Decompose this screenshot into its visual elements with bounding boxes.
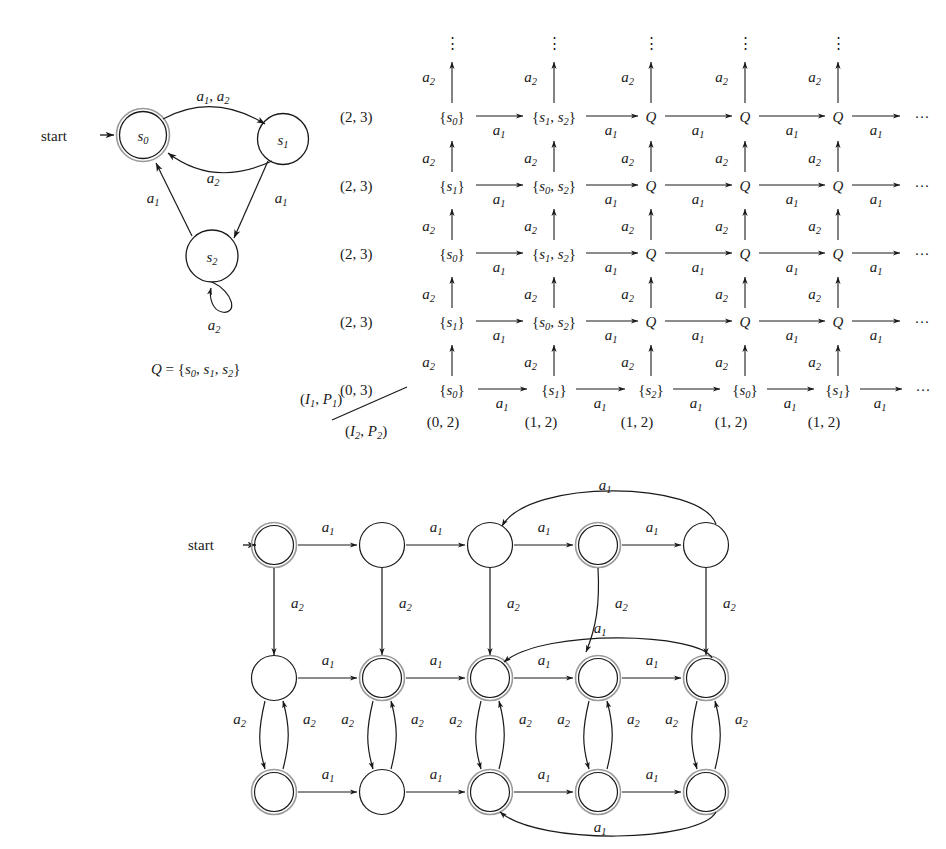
bottom-label-1: (1, 2) [525, 414, 558, 431]
row-0-up-label-3: a2 [715, 69, 729, 87]
row-3-arrowlabel-2: a1 [692, 327, 705, 345]
edge-s2-self-loop [210, 282, 231, 312]
edge-c2-r2-to-r1 [499, 701, 504, 769]
row-2-arrowlabel-4: a1 [870, 259, 883, 277]
bottom-label-2: (1, 2) [621, 414, 654, 431]
row-4-up-label-2: a2 [621, 354, 635, 372]
edge-r2-label-2: a1 [538, 766, 551, 784]
bottom-automaton: start a1 a1 a1 a1 [188, 477, 749, 837]
vertical-dots-4: ⋮ [738, 35, 753, 51]
row-1-arrowlabel-2: a1 [692, 191, 705, 209]
bottom-state-2-1 [360, 770, 405, 815]
row-2-up-label-0: a2 [422, 218, 436, 236]
grid-row-4: (0, 3) {s0} {s1} {s2} {s0} {s1} a1 a1 a1… [340, 345, 931, 413]
edge-r2-wrap-arc [500, 812, 716, 836]
row-4-arrowlabel-1: a1 [594, 395, 607, 413]
row-1-left-label: (2, 3) [340, 178, 373, 195]
top-start-label: start [41, 128, 68, 144]
edge-s1-to-s2 [234, 161, 268, 238]
edge-c4-r1-to-r2 [692, 701, 697, 769]
axis-label-upper: (I1, P1) [300, 391, 342, 409]
edge-r0-label-1: a1 [430, 519, 443, 537]
label-c3-r0-r1: a2 [615, 595, 629, 613]
row-0-ellipsis: ··· [915, 109, 930, 125]
row-0-arrowlabel-3: a1 [786, 122, 799, 140]
label-c3-left: a2 [557, 711, 571, 729]
edge-c4-r2-to-r1 [715, 701, 720, 769]
edge-c3-r2-to-r1 [607, 701, 612, 769]
edge-s2-self-label: a2 [208, 317, 222, 335]
row-0-arrowlabel-0: a1 [493, 122, 506, 140]
row-2-cell-1: {s1, s2} [532, 246, 576, 264]
vertical-dots-5: ⋮ [831, 35, 846, 51]
figure-page: start s0 s1 s2 a1, a2 a2 a1 a1 [0, 0, 946, 849]
row-3-up-label-4: a2 [808, 286, 822, 304]
row-1-cell-1: {s0, s2} [532, 178, 576, 196]
bottom-state-0-0 [252, 523, 297, 568]
row-4-cell-1: {s1} [541, 382, 567, 400]
row-2-cell-2: Q [646, 246, 657, 262]
edge-r1-wrap-label: a1 [594, 620, 607, 638]
label-c1-right: a2 [411, 711, 425, 729]
edge-r0-label-2: a1 [538, 519, 551, 537]
edge-c0-r2-to-r1 [283, 701, 288, 769]
bottom-state-0-4 [684, 523, 729, 568]
row-3-arrowlabel-0: a1 [493, 327, 506, 345]
row-1-up-label-1: a2 [524, 150, 538, 168]
row-4-up-label-1: a2 [524, 354, 538, 372]
row-1-cell-4: Q [833, 178, 844, 194]
edge-r2-label-1: a1 [430, 766, 443, 784]
row-0-up-label-2: a2 [621, 69, 635, 87]
vertical-dots-1: ⋮ [445, 35, 460, 51]
row-4-arrowlabel-4: a1 [874, 395, 887, 413]
row-1-cell-2: Q [646, 178, 657, 194]
row-1-ellipsis: ··· [915, 178, 930, 194]
row-1-up-label-2: a2 [621, 150, 635, 168]
edge-s1-to-s0 [168, 153, 272, 173]
state-s1-label: s1 [277, 132, 288, 150]
row-3-left-label: (2, 3) [340, 314, 373, 331]
row-2-left-label: (2, 3) [340, 246, 373, 263]
bottom-state-1-3 [576, 656, 621, 701]
vertical-dots-3: ⋮ [644, 35, 659, 51]
row-4-cell-0: {s0} [439, 382, 465, 400]
bottom-state-0-2 [468, 523, 513, 568]
label-c2-left: a2 [449, 711, 463, 729]
row-3-ellipsis: ··· [915, 314, 930, 330]
row-2-up-label-2: a2 [621, 218, 635, 236]
bottom-state-2-3 [576, 770, 621, 815]
edge-s0-s1-label: a1, a2 [197, 88, 231, 106]
edge-c1-r1-to-r2 [368, 701, 373, 769]
row-4-arrowlabel-2: a1 [690, 395, 703, 413]
state-s1: s1 [258, 114, 309, 165]
bottom-col-edges-r0-r1: a2 a2 a2 a2 a2 [274, 568, 737, 655]
bottom-state-1-2 [468, 656, 513, 701]
row-3-arrowlabel-4: a1 [870, 327, 883, 345]
row-3-up-label-1: a2 [524, 286, 538, 304]
edge-s0-to-s1 [163, 107, 265, 124]
state-s0-label: s0 [137, 128, 149, 146]
row-1-arrowlabel-0: a1 [493, 191, 506, 209]
row-3-up-label-2: a2 [621, 286, 635, 304]
row-3-cell-0: {s1} [439, 314, 465, 332]
edge-r0-label-3: a1 [646, 519, 659, 537]
bottom-col-edges-r1-r2: a2 a2 a2 a2 a2 a2 a2 a2 a2 a2 [233, 701, 748, 769]
edge-r1-label-1: a1 [430, 652, 443, 670]
row-0-arrowlabel-4: a1 [870, 122, 883, 140]
label-c0-left: a2 [233, 711, 247, 729]
edge-c0-r1-to-r2 [260, 701, 265, 769]
state-s2: s2 [186, 230, 238, 282]
edge-r0-wrap-arc [502, 491, 716, 526]
bottom-state-1-1 [360, 656, 405, 701]
row-0-cell-0: {s0} [439, 109, 465, 127]
edge-c2-r1-to-r2 [476, 701, 481, 769]
row-1-up-label-0: a2 [422, 150, 436, 168]
bottom-label-3: (1, 2) [715, 414, 748, 431]
row-0-up-label-4: a2 [808, 69, 822, 87]
row-2-up-label-4: a2 [808, 218, 822, 236]
row-1-arrowlabel-1: a1 [605, 191, 618, 209]
row-0-arrowlabel-1: a1 [605, 122, 618, 140]
bottom-start-label: start [188, 537, 215, 553]
edge-c3-r1-to-r2 [584, 701, 589, 769]
row-2-up-label-3: a2 [715, 218, 729, 236]
